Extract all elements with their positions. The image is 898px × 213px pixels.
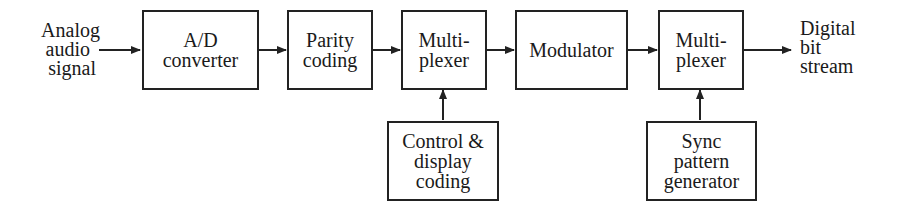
block-label-line: plexer: [419, 50, 469, 70]
block-multiplexer-2: Multi- plexer: [658, 10, 744, 90]
output-label-digital-bit-stream: Digital bit stream: [800, 19, 856, 76]
block-label-line: Parity: [306, 30, 354, 50]
block-modulator: Modulator: [515, 10, 628, 90]
block-label-line: coding: [416, 171, 470, 191]
block-label-line: Modulator: [529, 40, 613, 60]
block-control-display-coding: Control & display coding: [387, 121, 499, 201]
output-label-line: stream: [800, 57, 856, 76]
input-label-analog-audio-signal: Analog audio signal: [28, 21, 100, 78]
block-label-line: display: [414, 151, 472, 171]
block-label-line: Multi-: [675, 30, 726, 50]
block-label-line: Multi-: [418, 30, 469, 50]
block-sync-pattern-generator: Sync pattern generator: [646, 121, 757, 201]
block-ad-converter: A/D converter: [142, 10, 259, 90]
block-label-line: pattern: [674, 151, 730, 171]
block-label-line: converter: [163, 50, 239, 70]
block-label-line: generator: [664, 171, 740, 191]
block-multiplexer-1: Multi- plexer: [401, 10, 487, 90]
block-parity-coding: Parity coding: [287, 10, 373, 90]
block-label-line: A/D: [183, 30, 217, 50]
block-label-line: Sync: [681, 131, 721, 151]
block-label-line: Control &: [402, 131, 484, 151]
block-label-line: plexer: [676, 50, 726, 70]
input-label-line: signal: [28, 59, 100, 78]
block-label-line: coding: [303, 50, 357, 70]
